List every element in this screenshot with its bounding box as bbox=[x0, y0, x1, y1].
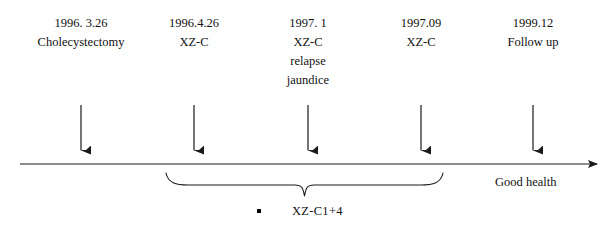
event-detail-1-line-1: Cholecystectomy bbox=[10, 33, 152, 52]
treatment-brace bbox=[166, 173, 443, 196]
event-label-3: 1997. 1 XZ-C relapse jaundice bbox=[253, 14, 363, 90]
event-detail-4-line-1: XZ-C bbox=[366, 33, 476, 52]
event-label-5: 1999.12 Follow up bbox=[478, 14, 588, 52]
event-detail-3-line-1: XZ-C bbox=[253, 33, 363, 52]
event-detail-3-line-2: relapse bbox=[253, 52, 363, 71]
event-detail-5-line-1: Follow up bbox=[478, 33, 588, 52]
event-date-2: 1996.4.26 bbox=[139, 14, 249, 33]
timeline-diagram: 1996. 3.26 Cholecystectomy 1996.4.26 XZ-… bbox=[0, 0, 605, 230]
event-detail-2-line-1: XZ-C bbox=[139, 33, 249, 52]
event-date-4: 1997.09 bbox=[366, 14, 476, 33]
event-label-1: 1996. 3.26 Cholecystectomy bbox=[10, 14, 152, 52]
event-label-2: 1996.4.26 XZ-C bbox=[139, 14, 249, 52]
event-detail-3-line-3: jaundice bbox=[253, 71, 363, 90]
event-label-4: 1997.09 XZ-C bbox=[366, 14, 476, 52]
event-date-5: 1999.12 bbox=[478, 14, 588, 33]
brace-treatment-label: XZ-C1+4 bbox=[292, 203, 343, 219]
axis-outcome-label: Good health bbox=[495, 174, 556, 190]
event-date-3: 1997. 1 bbox=[253, 14, 363, 33]
event-date-1: 1996. 3.26 bbox=[10, 14, 152, 33]
brace-label-bullet-icon bbox=[257, 209, 261, 213]
